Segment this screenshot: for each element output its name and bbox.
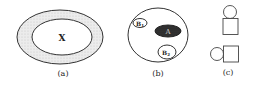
figure-c: (c) bbox=[211, 6, 239, 78]
circle-left bbox=[211, 48, 224, 61]
figure-a: X (a) bbox=[17, 10, 103, 78]
diagram-canvas: X (a) B1 A B2 (b) (c) bbox=[0, 0, 254, 85]
caption-c: (c) bbox=[223, 68, 234, 77]
figure-b: B1 A B2 (b) bbox=[128, 8, 188, 78]
caption-a: (a) bbox=[57, 69, 68, 78]
label-a: A bbox=[164, 28, 171, 36]
circle-top bbox=[224, 6, 237, 19]
square-bottom bbox=[224, 46, 239, 62]
caption-b: (b) bbox=[152, 69, 163, 78]
square-top bbox=[223, 19, 238, 35]
label-x: X bbox=[59, 33, 66, 43]
